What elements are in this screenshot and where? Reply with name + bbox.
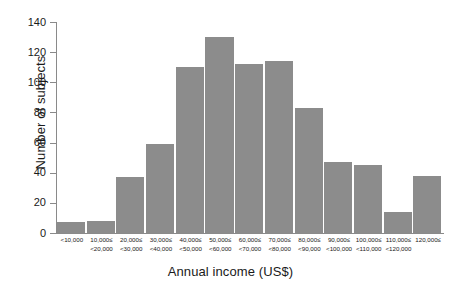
y-axis-tick <box>50 22 56 23</box>
histogram-bar <box>384 212 412 233</box>
histogram-bar <box>176 67 204 233</box>
x-tick-label-line2: <120,000 <box>373 245 423 254</box>
histogram-bar <box>413 176 441 233</box>
histogram-bar <box>265 61 293 233</box>
y-axis-tick-label: 140 <box>12 17 46 28</box>
y-axis-tick-label: 40 <box>12 167 46 178</box>
y-axis-tick-label: 60 <box>12 137 46 148</box>
y-axis-tick <box>50 143 56 144</box>
y-axis-tick <box>50 203 56 204</box>
histogram-bar <box>205 37 233 233</box>
histogram-bar <box>295 108 323 233</box>
y-axis-tick-label: 80 <box>12 107 46 118</box>
histogram-bar <box>57 222 85 233</box>
y-axis-tick <box>50 82 56 83</box>
histogram-figure: Number of subjects 020406080100120140 <1… <box>0 0 461 286</box>
x-tick-label-line1: 120,000≤ <box>415 236 441 243</box>
y-axis-tick <box>50 52 56 53</box>
histogram-bar <box>324 162 352 233</box>
y-axis-tick <box>50 233 56 234</box>
y-axis-tick-label: 0 <box>12 228 46 239</box>
y-axis-tick-label: 20 <box>12 197 46 208</box>
y-axis-tick-label: 100 <box>12 77 46 88</box>
y-axis-tick <box>50 173 56 174</box>
y-axis-tick-label: 120 <box>12 47 46 58</box>
histogram-bar <box>354 165 382 233</box>
x-axis-tick-label: 120,000≤ <box>403 236 453 245</box>
x-axis-tick-labels: <10,00010,000≤<20,00020,000≤<30,00030,00… <box>57 236 443 262</box>
histogram-bar <box>87 221 115 233</box>
histogram-bar <box>235 64 263 233</box>
plot-area <box>57 22 443 233</box>
x-axis-line <box>56 233 444 234</box>
y-axis-tick <box>50 112 56 113</box>
histogram-bar <box>146 144 174 233</box>
histogram-bar <box>116 177 144 233</box>
x-axis-title: Annual income (US$) <box>0 264 461 279</box>
